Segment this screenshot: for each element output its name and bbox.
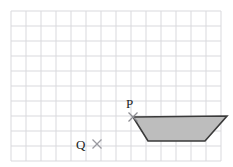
figure-layer bbox=[0, 0, 233, 167]
cross-marker-q bbox=[93, 140, 102, 149]
point-markers bbox=[93, 113, 138, 149]
point-label-p: P bbox=[126, 97, 133, 110]
point-label-q: Q bbox=[76, 138, 85, 151]
trapezoid-shape bbox=[133, 116, 227, 141]
geometry-figure-canvas: P Q bbox=[0, 0, 233, 167]
